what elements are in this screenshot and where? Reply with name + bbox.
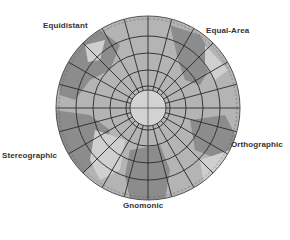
label-equal-area: Equal-Area — [206, 26, 249, 35]
label-equidistant: Equidistant — [43, 21, 88, 30]
label-orthographic: Orthographic — [231, 140, 283, 149]
label-stereographic: Stereographic — [2, 151, 57, 160]
label-gnomonic: Gnomonic — [123, 201, 163, 210]
